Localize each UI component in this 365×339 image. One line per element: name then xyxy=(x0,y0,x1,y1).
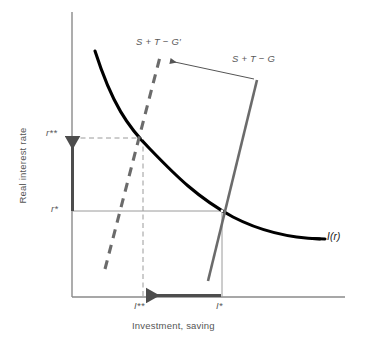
saving-line-new xyxy=(105,57,160,269)
investment-curve-tail xyxy=(313,239,325,240)
y-tick-label-r-star: r* xyxy=(51,203,58,214)
axes xyxy=(72,12,345,297)
saving-line-initial-label: S + T − G xyxy=(232,53,275,64)
y-tick-label-r-star-star: r** xyxy=(46,127,57,138)
equilibrium-initial-marker xyxy=(221,210,224,213)
x-tick-label-i-star: I* xyxy=(216,300,223,311)
x-axis-title: Investment, saving xyxy=(132,320,215,331)
y-axis-title: Real interest rate xyxy=(17,121,28,211)
saving-line-initial xyxy=(208,80,257,281)
guide-lines xyxy=(72,138,222,297)
saving-line-new-label: S + T − G′ xyxy=(136,36,181,47)
figure-canvas: S + T − G′ S + T − G I(r) r** r* I** I* … xyxy=(0,0,365,339)
x-tick-label-i-star-star: I** xyxy=(134,300,145,311)
equilibrium-new-marker xyxy=(142,137,145,140)
diagram-svg xyxy=(0,0,365,339)
investment-curve-label: I(r) xyxy=(327,231,341,242)
